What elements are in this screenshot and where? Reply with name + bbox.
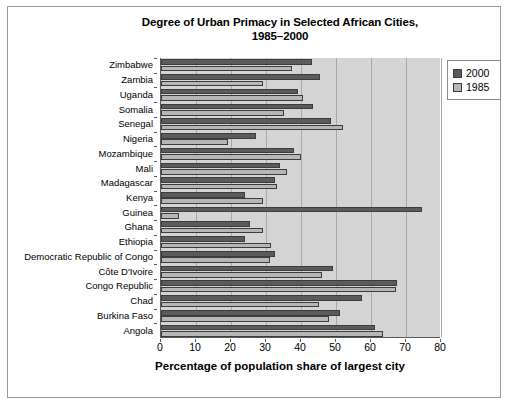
bar-row (161, 235, 440, 250)
bar-row (161, 146, 440, 161)
y-axis-tick (154, 323, 157, 324)
bar-1985-mozambique (161, 154, 301, 160)
bar-1985-zambia (161, 81, 263, 87)
gridline-80 (441, 58, 442, 337)
y-axis-tick (154, 176, 157, 177)
x-axis-tick-mark (160, 339, 161, 342)
bar-1985-ghana (161, 228, 263, 234)
bar-row (161, 132, 440, 147)
y-axis-tick (154, 73, 157, 74)
bar-rows (161, 58, 440, 337)
bar-row (161, 161, 440, 176)
bar-1985-c-te-d-ivoire (161, 272, 322, 278)
bar-1985-congo-republic (161, 287, 396, 293)
bar-2000-somalia (161, 104, 313, 110)
bar-row (161, 102, 440, 117)
bar-row (161, 279, 440, 294)
y-axis-label: Nigeria (123, 133, 153, 144)
y-axis-tick (154, 264, 157, 265)
bar-2000-angola (161, 325, 375, 331)
y-axis-tick (154, 146, 157, 147)
bar-row (161, 58, 440, 73)
x-axis-tick-label: 60 (355, 341, 385, 353)
y-axis-label: Mozambique (99, 148, 153, 159)
legend-label-1985: 1985 (466, 81, 489, 93)
bar-row (161, 220, 440, 235)
y-axis-label: Kenya (126, 192, 153, 203)
x-axis-tick-label: 30 (250, 341, 280, 353)
x-axis-tick-mark (370, 339, 371, 342)
bar-row (161, 191, 440, 206)
chart-figure: Degree of Urban Primacy in Selected Afri… (0, 0, 509, 407)
y-axis-labels: ZimbabweZambiaUgandaSomaliaSenegalNigeri… (10, 58, 157, 338)
bar-2000-uganda (161, 89, 298, 95)
legend-swatch-1985 (453, 83, 462, 92)
bar-2000-congo-republic (161, 280, 397, 286)
bar-1985-chad (161, 302, 319, 308)
bar-row (161, 264, 440, 279)
x-axis-tick-mark (195, 339, 196, 342)
legend-label-2000: 2000 (466, 67, 489, 79)
y-axis-label: Uganda (120, 89, 153, 100)
y-axis-tick (154, 132, 157, 133)
bar-2000-senegal (161, 118, 331, 124)
y-axis-label: Angola (123, 325, 153, 336)
bar-1985-burkina-faso (161, 316, 329, 322)
y-axis-label: Zambia (121, 74, 153, 85)
bar-2000-zambia (161, 74, 320, 80)
bar-2000-burkina-faso (161, 310, 340, 316)
bar-1985-uganda (161, 95, 303, 101)
x-axis-tick-label: 80 (425, 341, 455, 353)
bar-2000-ghana (161, 221, 250, 227)
plot-area (160, 58, 440, 338)
y-axis-label: Congo Republic (85, 280, 153, 291)
bar-2000-zimbabwe (161, 59, 312, 65)
y-axis-tick (154, 117, 157, 118)
bar-2000-guinea (161, 207, 422, 213)
bar-1985-zimbabwe (161, 66, 292, 72)
bar-2000-mozambique (161, 148, 294, 154)
x-axis-tick-label: 70 (390, 341, 420, 353)
y-axis-label: Zimbabwe (109, 59, 153, 70)
bar-2000-nigeria (161, 133, 256, 139)
bar-1985-madagascar (161, 184, 277, 190)
chart-title: Degree of Urban Primacy in Selected Afri… (120, 15, 440, 43)
bar-1985-nigeria (161, 139, 228, 145)
bar-row (161, 205, 440, 220)
bar-1985-ethiopia (161, 243, 271, 249)
y-axis-tick (154, 250, 157, 251)
bar-1985-angola (161, 331, 383, 337)
bar-2000-mali (161, 163, 280, 169)
x-axis-tick-mark (230, 339, 231, 342)
y-axis-tick (154, 102, 157, 103)
y-axis-tick (154, 294, 157, 295)
x-axis-tick-mark (335, 339, 336, 342)
y-axis-label: Guinea (122, 207, 153, 218)
x-axis-tick-mark (300, 339, 301, 342)
bar-2000-kenya (161, 192, 245, 198)
x-axis-tick-label: 50 (320, 341, 350, 353)
y-axis-label: Chad (130, 295, 153, 306)
bar-row (161, 176, 440, 191)
y-axis-label: Ghana (124, 221, 153, 232)
y-axis-label: Madagascar (101, 177, 153, 188)
y-axis-tick (154, 279, 157, 280)
y-axis-tick (154, 87, 157, 88)
x-axis-tick-label: 10 (180, 341, 210, 353)
bar-1985-mali (161, 169, 287, 175)
bar-row (161, 309, 440, 324)
bar-row (161, 117, 440, 132)
y-axis-label: Mali (136, 163, 153, 174)
y-axis-tick (154, 161, 157, 162)
x-axis-tick-label: 0 (145, 341, 175, 353)
bar-1985-kenya (161, 198, 263, 204)
bar-row (161, 73, 440, 88)
x-axis-tick-mark (405, 339, 406, 342)
bar-row (161, 250, 440, 265)
chart-legend: 2000 1985 (447, 60, 501, 100)
y-axis-label: Ethiopia (119, 236, 153, 247)
x-axis-tick-label: 40 (285, 341, 315, 353)
bar-2000-democratic-republic-of-congo (161, 251, 275, 257)
bar-1985-somalia (161, 110, 284, 116)
x-axis-tick-label: 20 (215, 341, 245, 353)
